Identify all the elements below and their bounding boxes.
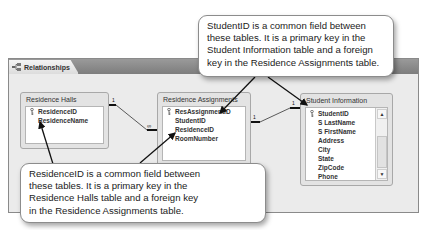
field-residencename[interactable]: ResidenceName [26,116,103,125]
field-list: ResAssignmentID StudentID ResidenceID Ro… [162,106,246,161]
table-title[interactable]: Student Information [301,94,392,107]
field-residenceid[interactable]: ResidenceID [163,125,245,134]
table-title[interactable]: Residence Halls [21,93,108,106]
tab-relationships[interactable]: Relationships [9,60,79,74]
table-title[interactable]: Residence Assignments [158,93,250,106]
tab-label: Relationships [24,64,70,71]
table-residence-assignments[interactable]: Residence Assignments ResAssignmentID St… [157,92,251,166]
scroll-down-arrow-icon[interactable]: ▼ [377,169,387,179]
table-residence-halls[interactable]: Residence Halls ResidenceID ResidenceNam… [20,92,109,149]
callout-studentid: StudentID is a common field between thes… [198,15,394,77]
field-resassignmentid[interactable]: ResAssignmentID [163,107,245,116]
field-list: ResidenceID ResidenceName [25,106,104,144]
scrollbar-thumb[interactable] [377,136,387,168]
primary-key-icon [30,108,34,115]
callout-residenceid: ResidenceID is a common field between th… [20,163,266,223]
table-student-information[interactable]: Student Information StudentID S LastName… [300,93,393,186]
field-list: StudentID S LastName S FirstName Address… [305,107,388,181]
field-studentid[interactable]: StudentID [163,116,245,125]
primary-key-icon [310,110,314,117]
scroll-up-arrow-icon[interactable]: ▲ [377,109,387,119]
relationships-icon [12,63,21,71]
field-roomnumber[interactable]: RoomNumber [163,134,245,143]
primary-key-icon [167,108,171,115]
vertical-scrollbar[interactable]: ▲ ▼ [375,108,387,180]
field-residenceid[interactable]: ResidenceID [26,107,103,116]
